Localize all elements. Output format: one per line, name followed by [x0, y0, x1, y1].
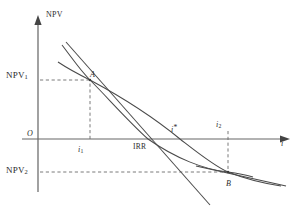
npv2-label-subscript: 2 — [25, 168, 28, 175]
shallower-npv-profile — [58, 62, 281, 186]
x-axis-label: i — [281, 140, 283, 148]
npv2-label-text: NPV — [6, 165, 25, 175]
istar-label-superscript: * — [173, 123, 177, 132]
npv2-label: NPV2 — [6, 166, 28, 176]
i1-label-subscript: 1 — [80, 148, 83, 154]
point-b-marker — [227, 171, 229, 173]
i2-tick-label: i2 — [216, 121, 222, 130]
y-axis-label: NPV — [46, 11, 63, 19]
axes-group — [22, 15, 290, 192]
i1-tick-label: i1 — [78, 146, 84, 155]
y-axis-arrow-icon — [34, 15, 41, 25]
point-b-label: B — [226, 180, 231, 188]
origin-label: O — [27, 130, 33, 138]
point-a-marker — [89, 79, 91, 81]
npv-profile-figure: NPV i O NPV1 NPV2 i1 i2 IRR i* A B — [0, 0, 296, 209]
npv1-label-text: NPV — [6, 70, 25, 80]
figure-canvas — [0, 0, 296, 209]
i2-label-subscript: 2 — [218, 123, 221, 129]
npv1-label-subscript: 1 — [25, 73, 28, 80]
tangent-line-through-A — [66, 42, 210, 205]
npv1-label: NPV1 — [6, 71, 28, 81]
istar-label: i* — [171, 124, 177, 134]
point-a-label: A — [90, 71, 95, 79]
steeper-npv-profile — [62, 45, 253, 177]
irr-label: IRR — [133, 143, 146, 151]
point-markers-group — [89, 79, 229, 173]
